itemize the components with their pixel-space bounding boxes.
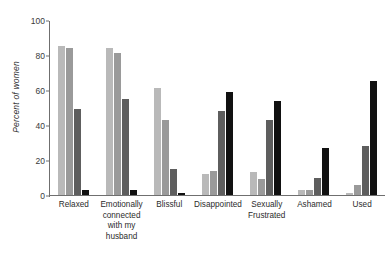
- plot-area: 020406080100: [49, 21, 385, 196]
- bar: [266, 120, 273, 195]
- bar: [370, 81, 377, 195]
- bar-group: [241, 21, 289, 195]
- x-tick-label: Ashamed: [291, 200, 339, 242]
- y-tick-label-100: 100: [31, 16, 45, 26]
- bar-group: [50, 21, 98, 195]
- x-tick-label-line: with my: [99, 221, 145, 232]
- bar: [322, 148, 329, 195]
- bar: [258, 179, 265, 195]
- y-tick-mark-100: [46, 21, 49, 22]
- bar: [170, 169, 177, 195]
- bar: [354, 185, 361, 196]
- bar: [74, 109, 81, 195]
- y-tick-mark-20: [46, 161, 49, 162]
- y-axis-title: Percent of women: [11, 37, 21, 157]
- bar: [58, 46, 65, 195]
- y-tick-mark-0: [46, 196, 49, 197]
- bar: [122, 99, 129, 195]
- bar: [130, 190, 137, 195]
- x-tick-label-line: connected: [99, 211, 145, 222]
- bar: [346, 193, 353, 195]
- x-tick-label: Blissful: [145, 200, 193, 242]
- x-tick-label-line: Relaxed: [51, 200, 97, 211]
- x-tick-label-line: Emotionally: [99, 200, 145, 211]
- bar: [106, 48, 113, 195]
- x-tick-label-line: husband: [99, 232, 145, 243]
- y-tick-mark-40: [46, 126, 49, 127]
- bar: [66, 48, 73, 195]
- x-tick-label-line: Disappointed: [194, 200, 242, 211]
- x-tick-label-line: Frustrated: [244, 211, 290, 222]
- bar: [314, 178, 321, 196]
- bar: [218, 111, 225, 195]
- y-tick-label-80: 80: [36, 51, 45, 61]
- x-axis-labels: RelaxedEmotionallyconnectedwith myhusban…: [50, 200, 386, 242]
- y-tick-mark-80: [46, 56, 49, 57]
- x-axis-line: [49, 195, 385, 196]
- x-tick-label-line: Sexually: [244, 200, 290, 211]
- bar: [210, 171, 217, 196]
- x-tick-label: SexuallyFrustrated: [243, 200, 291, 242]
- bar: [274, 101, 281, 196]
- bar-group: [98, 21, 146, 195]
- bar: [162, 120, 169, 195]
- y-tick-label-60: 60: [36, 86, 45, 96]
- x-tick-label-line: Ashamed: [292, 200, 338, 211]
- bar: [202, 174, 209, 195]
- bar: [154, 88, 161, 195]
- y-tick-mark-60: [46, 91, 49, 92]
- bar: [82, 190, 89, 195]
- bar: [226, 92, 233, 195]
- bar: [250, 172, 257, 195]
- bar-groups: [50, 21, 385, 195]
- bar: [306, 190, 313, 195]
- bar-group: [194, 21, 242, 195]
- bar: [362, 146, 369, 195]
- y-tick-label-20: 20: [36, 156, 45, 166]
- x-tick-label: Disappointed: [193, 200, 243, 242]
- x-tick-label: Used: [338, 200, 386, 242]
- x-tick-label: Emotionallyconnectedwith myhusband: [98, 200, 146, 242]
- bar-group: [337, 21, 385, 195]
- bar: [178, 193, 185, 195]
- bar-chart: Percent of women 020406080100 RelaxedEmo…: [0, 0, 389, 255]
- y-tick-label-40: 40: [36, 121, 45, 131]
- bar: [114, 53, 121, 195]
- bar: [298, 190, 305, 195]
- y-tick-label-0: 0: [40, 191, 45, 201]
- x-tick-label: Relaxed: [50, 200, 98, 242]
- bar-group: [146, 21, 194, 195]
- x-tick-label-line: Blissful: [146, 200, 192, 211]
- bar-group: [289, 21, 337, 195]
- x-tick-label-line: Used: [339, 200, 385, 211]
